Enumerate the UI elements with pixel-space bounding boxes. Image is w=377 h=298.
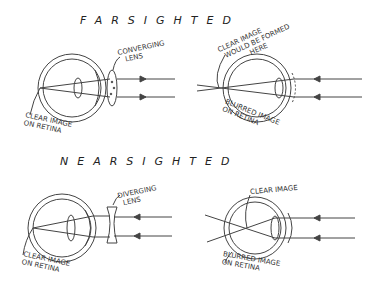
farsighted-title: FARSIGHTED <box>80 14 240 27</box>
nearsighted-title: NEARSIGHTED <box>60 155 239 168</box>
converging-lens-icon <box>107 57 120 106</box>
nearsighted-corrected-eye-icon <box>28 194 96 262</box>
diagram-drawing <box>0 0 377 298</box>
farsighted-corrected-eye-icon <box>38 54 110 122</box>
eye-vision-diagram: FARSIGHTED NEARSIGHTED CONVERGING LENS C… <box>0 0 377 298</box>
nearsighted-corrected-rays <box>23 214 172 255</box>
